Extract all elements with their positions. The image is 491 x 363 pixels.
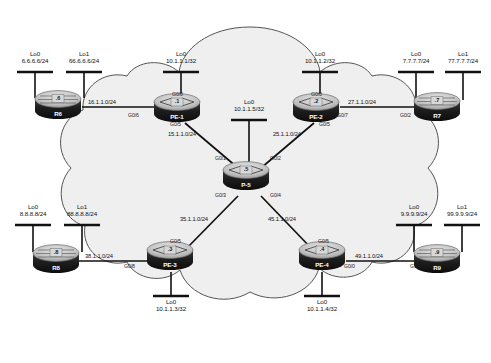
link-label-r6-pe1: 16.1.1.0/24 — [88, 99, 116, 106]
router-number-r8: .8 — [46, 249, 66, 255]
interface-label-pe2-g05: G0/5 — [319, 121, 330, 127]
loopback-label-r7-lo1-addr: 77.7.7.7/24 — [433, 57, 491, 64]
loopback-label-pe3-lo0-addr: 10.1.1.3/32 — [141, 305, 201, 312]
loopback-label-pe2-lo0-addr: 10.1.1.2/32 — [290, 57, 350, 64]
loopback-label-r8-lo1-addr: 88.8.8.8/24 — [52, 210, 112, 217]
router-number-r7: .7 — [427, 97, 447, 103]
interface-label-pe3-g05: G0/5 — [170, 238, 181, 244]
router-name-pe1: PE-1 — [157, 113, 197, 120]
interface-label-r7-g02: G0/2 — [400, 112, 411, 118]
link-label-r8-pe3: 38.1.1.0/24 — [85, 253, 113, 260]
interface-label-r8-g03: G0/3 — [61, 263, 72, 269]
link-label-pe3-p5: 35.1.1.0/24 — [180, 216, 208, 223]
interface-label-pe1-g05: G0/5 — [170, 121, 181, 127]
interface-label-p5-g04: G0/4 — [270, 192, 281, 198]
router-number-pe3: .3 — [160, 246, 180, 252]
router-name-r9: R9 — [417, 264, 457, 271]
router-name-pe2: PE-2 — [296, 113, 336, 120]
router-number-pe1: .1 — [167, 98, 187, 104]
loopback-label-pe4-lo0-addr: 10.1.1.4/32 — [292, 305, 352, 312]
router-name-pe3: PE-3 — [150, 261, 190, 268]
link-label-pe2-p5: 25.1.1.0/24 — [273, 131, 301, 138]
interface-label-p5-g03: G0/3 — [215, 192, 226, 198]
interface-label-pe3-g08: G0/8 — [124, 263, 135, 269]
router-number-r9: .9 — [427, 249, 447, 255]
router-name-pe4: PE-4 — [302, 261, 342, 268]
interface-label-pe4-g00: G0/0 — [344, 263, 355, 269]
interface-label-pe2-g07: G0/7 — [337, 112, 348, 118]
router-number-p5: .5 — [236, 166, 256, 172]
interface-label-p5-g02: G0/2 — [270, 155, 281, 161]
link-label-pe4-r9: 49.1.1.0/24 — [355, 253, 383, 260]
loopback-label-p5-lo0-addr: 10.1.1.5/32 — [219, 105, 279, 112]
interface-label-pe1-g00: G0/0 — [172, 91, 183, 97]
router-name-r7: R7 — [417, 112, 457, 119]
loopback-label-pe1-lo0-addr: 10.1.1.1/32 — [151, 57, 211, 64]
router-number-r6: .6 — [48, 95, 68, 101]
interface-label-r9-g1: G1 — [410, 263, 417, 269]
link-label-pe1-p5: 15.1.1.0/24 — [168, 131, 196, 138]
interface-label-pe1-g06: G0/6 — [128, 112, 139, 118]
network-diagram: Lo0 6.6.6.6/24 Lo1 66.6.6.6/24 Lo0 10.1.… — [0, 0, 491, 363]
link-label-pe2-r7: 27.1.1.0/24 — [348, 99, 376, 106]
loopback-label-r9-lo1-addr: 99.9.9.9/24 — [432, 210, 491, 217]
interface-label-p5-g01: G0/1 — [215, 155, 226, 161]
router-name-p5: P-5 — [226, 181, 266, 188]
interface-label-pe4-g05: G0/5 — [318, 238, 329, 244]
interface-label-r6-g01: G0/1 — [63, 112, 74, 118]
loopback-label-r6-lo1-addr: 66.6.6.6/24 — [54, 57, 114, 64]
router-number-pe2: .2 — [306, 98, 326, 104]
link-label-pe4-p5: 45.1.1.0/24 — [268, 216, 296, 223]
router-number-pe4: .4 — [312, 246, 332, 252]
interface-label-pe2-g00: G0/0 — [311, 91, 322, 97]
